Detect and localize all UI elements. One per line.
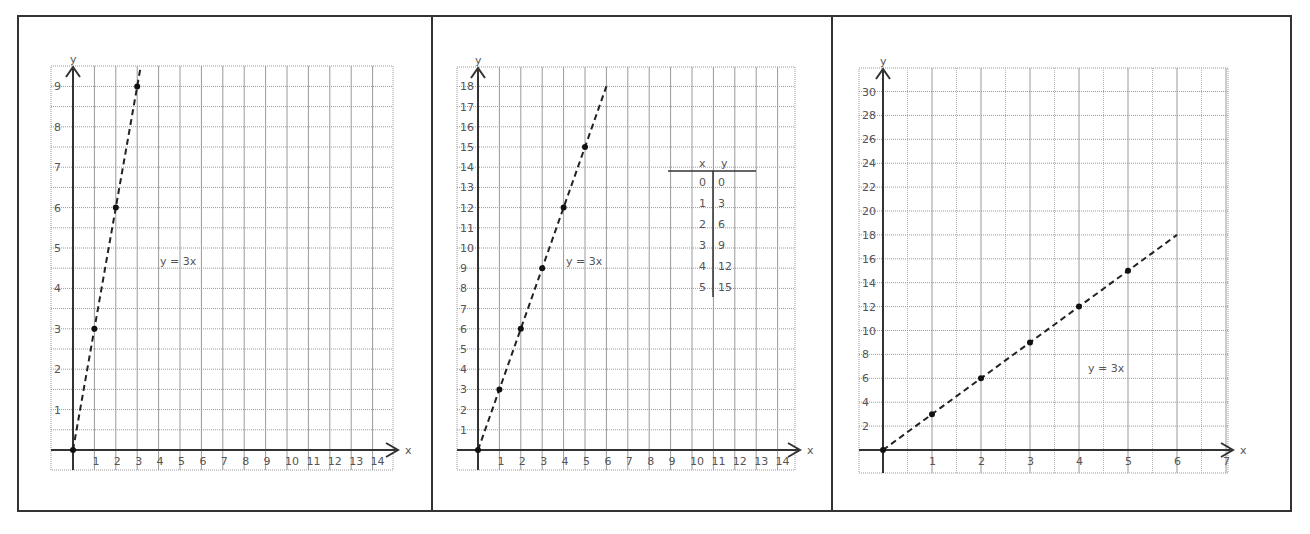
x-tick-label: 5 xyxy=(583,455,590,468)
table-header-y: y xyxy=(721,157,728,170)
x-tick-label: 9 xyxy=(264,455,271,468)
y-tick-label: 2 xyxy=(862,420,869,433)
y-tick-label: 8 xyxy=(54,121,61,134)
data-point xyxy=(978,375,984,381)
table-cell-x: 3 xyxy=(699,239,706,252)
y-tick-label: 28 xyxy=(862,109,876,122)
x-tick-label: 3 xyxy=(135,455,142,468)
x-tick-label: 1 xyxy=(929,455,936,468)
y-tick-label: 6 xyxy=(54,202,61,215)
x-tick-label: 2 xyxy=(978,455,985,468)
x-tick-label: 10 xyxy=(285,455,299,468)
x-tick-label: 6 xyxy=(604,455,611,468)
y-axis-label: y xyxy=(880,55,887,68)
x-tick-label: 10 xyxy=(690,455,704,468)
y-tick-label: 6 xyxy=(862,372,869,385)
x-tick-label: 12 xyxy=(328,455,342,468)
x-tick-label: 7 xyxy=(626,455,633,468)
x-tick-label: 14 xyxy=(371,455,385,468)
equation-label: y = 3x xyxy=(160,255,197,268)
equation-label: y = 3x xyxy=(1088,362,1125,375)
x-tick-label: 4 xyxy=(562,455,569,468)
data-point xyxy=(1125,268,1131,274)
y-tick-label: 3 xyxy=(54,323,61,336)
chart-panel-3: yx123456724681012141618202224262830y = 3… xyxy=(859,55,1247,473)
x-axis-label: x xyxy=(1240,444,1247,457)
x-tick-label: 3 xyxy=(1027,455,1034,468)
x-tick-label: 1 xyxy=(497,455,504,468)
table-cell-x: 0 xyxy=(699,176,706,189)
data-point xyxy=(518,326,524,332)
y-tick-label: 24 xyxy=(862,157,876,170)
x-tick-label: 7 xyxy=(1223,455,1230,468)
y-tick-label: 16 xyxy=(862,253,876,266)
y-tick-label: 3 xyxy=(460,383,467,396)
y-tick-label: 11 xyxy=(460,222,474,235)
x-tick-label: 13 xyxy=(754,455,768,468)
table-cell-y: 9 xyxy=(718,239,725,252)
y-tick-label: 2 xyxy=(460,404,467,417)
y-tick-label: 10 xyxy=(862,325,876,338)
data-point xyxy=(539,265,545,271)
table-cell-y: 15 xyxy=(718,281,732,294)
y-tick-label: 14 xyxy=(862,277,876,290)
y-tick-label: 14 xyxy=(460,161,474,174)
y-tick-label: 22 xyxy=(862,181,876,194)
x-tick-label: 13 xyxy=(349,455,363,468)
data-point xyxy=(1076,304,1082,310)
x-tick-label: 6 xyxy=(1174,455,1181,468)
x-tick-label: 3 xyxy=(540,455,547,468)
data-point xyxy=(561,205,567,211)
data-point xyxy=(70,447,76,453)
data-point xyxy=(929,411,935,417)
y-tick-label: 15 xyxy=(460,141,474,154)
data-point xyxy=(475,447,481,453)
data-point xyxy=(91,326,97,332)
y-tick-label: 12 xyxy=(460,202,474,215)
table-cell-x: 2 xyxy=(699,218,706,231)
grid-lines xyxy=(457,67,795,470)
y-axis-label: y xyxy=(70,53,77,66)
y-tick-label: 10 xyxy=(460,242,474,255)
y-tick-label: 17 xyxy=(460,101,474,114)
x-tick-label: 8 xyxy=(242,455,249,468)
dashed-line-y-equals-3x xyxy=(73,68,140,450)
y-tick-label: 4 xyxy=(54,282,61,295)
x-tick-label: 8 xyxy=(647,455,654,468)
data-point xyxy=(134,83,140,89)
x-tick-label: 7 xyxy=(221,455,228,468)
equation-label: y = 3x xyxy=(566,255,603,268)
table-header-x: x xyxy=(699,157,706,170)
y-tick-label: 8 xyxy=(460,282,467,295)
table-cell-x: 4 xyxy=(699,260,706,273)
table-cell-y: 12 xyxy=(718,260,732,273)
y-tick-label: 5 xyxy=(54,242,61,255)
y-tick-label: 6 xyxy=(460,323,467,336)
y-tick-label: 7 xyxy=(460,303,467,316)
x-axis-label: x xyxy=(405,444,412,457)
y-tick-label: 9 xyxy=(54,80,61,93)
y-tick-label: 30 xyxy=(862,86,876,99)
x-tick-label: 5 xyxy=(1125,455,1132,468)
y-tick-label: 18 xyxy=(460,80,474,93)
x-tick-label: 1 xyxy=(92,455,99,468)
x-tick-label: 2 xyxy=(114,455,121,468)
y-tick-label: 16 xyxy=(460,121,474,134)
x-tick-label: 4 xyxy=(157,455,164,468)
charts-canvas: yx1234567891011121314123456789y = 3xyx12… xyxy=(0,0,1310,534)
data-point xyxy=(113,205,119,211)
y-tick-label: 13 xyxy=(460,181,474,194)
y-axis-label: y xyxy=(475,54,482,67)
y-tick-label: 8 xyxy=(862,348,869,361)
x-tick-label: 12 xyxy=(733,455,747,468)
table-cell-y: 3 xyxy=(718,197,725,210)
x-tick-label: 14 xyxy=(776,455,790,468)
x-tick-label: 2 xyxy=(519,455,526,468)
x-tick-label: 6 xyxy=(199,455,206,468)
y-tick-label: 1 xyxy=(54,404,61,417)
grid-lines xyxy=(51,66,393,470)
table-cell-x: 5 xyxy=(699,281,706,294)
table-cell-y: 6 xyxy=(718,218,725,231)
y-tick-label: 18 xyxy=(862,229,876,242)
y-tick-label: 7 xyxy=(54,161,61,174)
